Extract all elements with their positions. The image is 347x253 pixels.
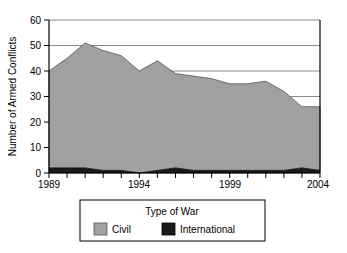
y-tick-label-40: 40 <box>30 66 42 77</box>
legend-swatch-civil <box>94 223 107 235</box>
legend: Type of War Civil International <box>80 200 265 241</box>
y-tick-label-20: 20 <box>30 117 42 128</box>
x-axis-ticks <box>49 173 320 178</box>
x-tick-label-1989: 1989 <box>38 179 61 190</box>
y-tick-label-50: 50 <box>30 40 42 51</box>
y-axis-ticks <box>44 20 49 173</box>
legend-label-civil: Civil <box>112 224 131 235</box>
y-axis-title: Number of Armed Conflicts <box>7 37 18 157</box>
x-tick-label-1994: 1994 <box>128 179 151 190</box>
armed-conflicts-area-chart: 60 50 40 30 20 10 0 1989 1994 1999 2004 … <box>0 0 347 253</box>
legend-label-international: International <box>180 224 235 235</box>
x-tick-label-1999: 1999 <box>219 179 242 190</box>
x-axis-tick-labels: 1989 1994 1999 2004 <box>38 179 330 190</box>
y-tick-label-10: 10 <box>30 142 42 153</box>
legend-title: Type of War <box>145 206 199 217</box>
legend-swatch-international <box>162 223 175 235</box>
y-tick-label-30: 30 <box>30 91 42 102</box>
y-tick-label-60: 60 <box>30 15 42 26</box>
chart-canvas: 60 50 40 30 20 10 0 1989 1994 1999 2004 … <box>0 0 347 253</box>
y-axis-tick-labels: 60 50 40 30 20 10 0 <box>30 15 42 179</box>
y-tick-label-0: 0 <box>35 168 41 179</box>
x-tick-label-2004: 2004 <box>307 179 330 190</box>
